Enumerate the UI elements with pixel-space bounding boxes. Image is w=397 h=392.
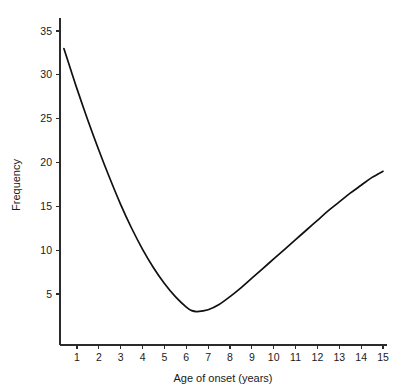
x-tick-label: 10 xyxy=(268,351,280,363)
chart-figure: 5101520253035 123456789101112131415 Age … xyxy=(0,0,397,392)
x-axis-title: Age of onset (years) xyxy=(173,372,272,384)
x-tick-label: 1 xyxy=(74,351,80,363)
x-tick-label: 14 xyxy=(355,351,367,363)
x-tick-label: 11 xyxy=(290,351,301,363)
y-tick-label: 10 xyxy=(40,244,52,256)
x-tick-label: 5 xyxy=(162,351,168,363)
x-tick-label: 4 xyxy=(140,351,146,363)
x-tick-label: 8 xyxy=(227,351,233,363)
y-tick-label: 25 xyxy=(40,112,52,124)
frequency-curve xyxy=(64,49,383,312)
x-tick-label: 3 xyxy=(118,351,124,363)
y-tick-label: 30 xyxy=(40,68,52,80)
x-tick-label: 6 xyxy=(183,351,189,363)
y-tick-label: 5 xyxy=(46,288,52,300)
chart-plot-area: 5101520253035 123456789101112131415 Age … xyxy=(0,0,397,392)
x-tick-label: 9 xyxy=(249,351,255,363)
y-tick-label: 35 xyxy=(40,25,52,37)
x-tick-label: 7 xyxy=(205,351,211,363)
x-axis-ticks: 123456789101112131415 xyxy=(74,345,389,363)
y-axis-title: Frequency xyxy=(10,159,22,211)
x-tick-label: 12 xyxy=(312,351,324,363)
y-tick-label: 15 xyxy=(40,200,52,212)
x-tick-label: 15 xyxy=(377,351,389,363)
y-axis-ticks: 5101520253035 xyxy=(40,25,60,300)
y-tick-label: 20 xyxy=(40,156,52,168)
x-tick-label: 2 xyxy=(96,351,102,363)
x-tick-label: 13 xyxy=(333,351,345,363)
